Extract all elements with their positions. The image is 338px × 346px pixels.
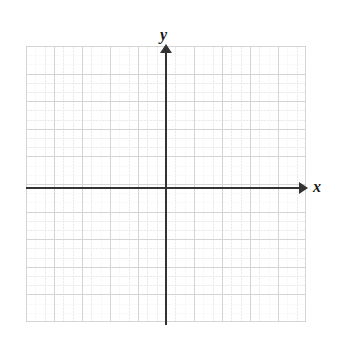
y-axis-arrow-icon xyxy=(160,44,172,53)
x-axis-arrow-icon xyxy=(299,182,308,194)
coordinate-plane-figure: y x xyxy=(0,0,338,346)
x-axis-label: x xyxy=(313,179,321,195)
x-axis-line xyxy=(26,187,301,189)
y-axis-line xyxy=(165,52,167,325)
y-axis-label: y xyxy=(160,27,167,43)
